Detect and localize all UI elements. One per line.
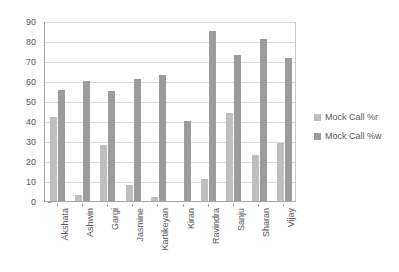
y-axis-tick-label: 90 (8, 18, 36, 27)
gridline (45, 201, 295, 202)
x-axis-tick-label: Kiran (187, 208, 196, 229)
x-axis-tick-label: Gargi (111, 208, 120, 230)
y-axis-tick-label: 30 (8, 138, 36, 147)
bar (151, 197, 158, 201)
x-axis-tick-mark (157, 204, 158, 207)
y-axis-tick-label: 40 (8, 118, 36, 127)
bar (234, 55, 241, 201)
bar (209, 31, 216, 201)
bar (100, 145, 107, 201)
bar (184, 121, 191, 201)
bar-group (45, 22, 70, 201)
bar-group (247, 22, 272, 201)
bar-group (272, 22, 297, 201)
bar (134, 79, 141, 201)
bar (201, 179, 208, 201)
x-axis-tick-label: Ashwin (86, 208, 95, 237)
bar-group (221, 22, 246, 201)
x-axis-tick-label: Sharan (262, 208, 271, 237)
x-axis-tick-mark (132, 204, 133, 207)
x-axis-tick-label: Jasmine (136, 208, 145, 242)
x-axis-tick-mark (258, 204, 259, 207)
y-axis-tick-label: 70 (8, 58, 36, 67)
bar (252, 155, 259, 201)
bar (285, 58, 292, 201)
bar (126, 185, 133, 201)
bar (83, 81, 90, 201)
y-axis-tick-label: 60 (8, 78, 36, 87)
x-axis-tick-label: Ravindra (212, 208, 221, 244)
y-axis-tick-label: 20 (8, 158, 36, 167)
bar (260, 39, 267, 201)
legend-item[interactable]: Mock Call %w (314, 129, 398, 144)
legend-item[interactable]: Mock Call %r (314, 110, 398, 125)
x-axis-tick-mark (107, 204, 108, 207)
legend-label: Mock Call %r (325, 113, 378, 122)
y-axis-tick-label: 10 (8, 178, 36, 187)
y-axis-tick-mark (48, 202, 52, 203)
x-axis-tick-mark (208, 204, 209, 207)
legend-swatch-icon (314, 114, 321, 121)
x-axis-tick-mark (233, 204, 234, 207)
y-axis-tick-label: 0 (8, 198, 36, 207)
bar (58, 90, 65, 201)
bar (75, 195, 82, 201)
y-axis-tick-label: 80 (8, 38, 36, 47)
bar (226, 113, 233, 201)
x-axis-tick-mark (57, 204, 58, 207)
bar-chart: 0102030405060708090 AkshataAshwinGargiJa… (0, 0, 399, 272)
bar (159, 75, 166, 201)
bar (108, 91, 115, 201)
bar-group (171, 22, 196, 201)
x-axis-tick-label: Sanju (237, 208, 246, 231)
x-axis-tick-mark (183, 204, 184, 207)
legend-label: Mock Call %w (325, 132, 382, 141)
y-axis: 0102030405060708090 (8, 0, 38, 272)
y-axis-tick-label: 50 (8, 98, 36, 107)
x-axis-tick-mark (283, 204, 284, 207)
plot-area (44, 22, 296, 202)
bar-group (121, 22, 146, 201)
x-axis-tick-label: Kartikeyan (161, 208, 170, 251)
bar-group (95, 22, 120, 201)
chart-legend: Mock Call %rMock Call %w (314, 110, 398, 148)
x-axis-tick-mark (82, 204, 83, 207)
bar-group (196, 22, 221, 201)
x-axis: AkshataAshwinGargiJasmineKartikeyanKiran… (44, 204, 296, 272)
bar-group (146, 22, 171, 201)
x-axis-tick-label: Vijay (287, 208, 296, 227)
bar-group (70, 22, 95, 201)
x-axis-tick-label: Akshata (61, 208, 70, 241)
legend-swatch-icon (314, 133, 321, 140)
bar (277, 143, 284, 201)
bar (50, 117, 57, 201)
